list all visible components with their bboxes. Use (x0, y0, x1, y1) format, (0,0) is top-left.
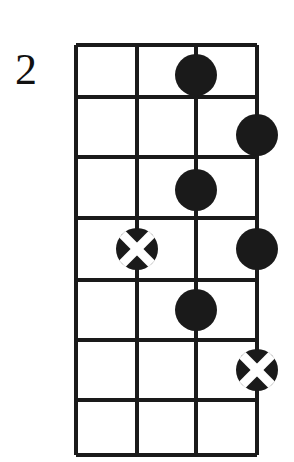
marker-dot-string3-fret3 (175, 169, 217, 211)
chord-diagram: 2 (0, 0, 294, 462)
fret-lines-group (76, 45, 257, 455)
marker-circle (175, 54, 217, 96)
marker-circle (236, 114, 278, 156)
marker-circle (175, 169, 217, 211)
marker-cross-string2-fret4 (116, 228, 158, 270)
string-lines-group (76, 45, 257, 455)
marker-dot-string3-fret5 (175, 289, 217, 331)
marker-cross-string4-fret6 (236, 349, 278, 391)
fretboard-grid (0, 0, 294, 462)
marker-dot-string4-fret4 (236, 228, 278, 270)
marker-dot-string3-fret1 (175, 54, 217, 96)
marker-circle (175, 289, 217, 331)
marker-circle (236, 228, 278, 270)
marker-dot-string4-fret2 (236, 114, 278, 156)
